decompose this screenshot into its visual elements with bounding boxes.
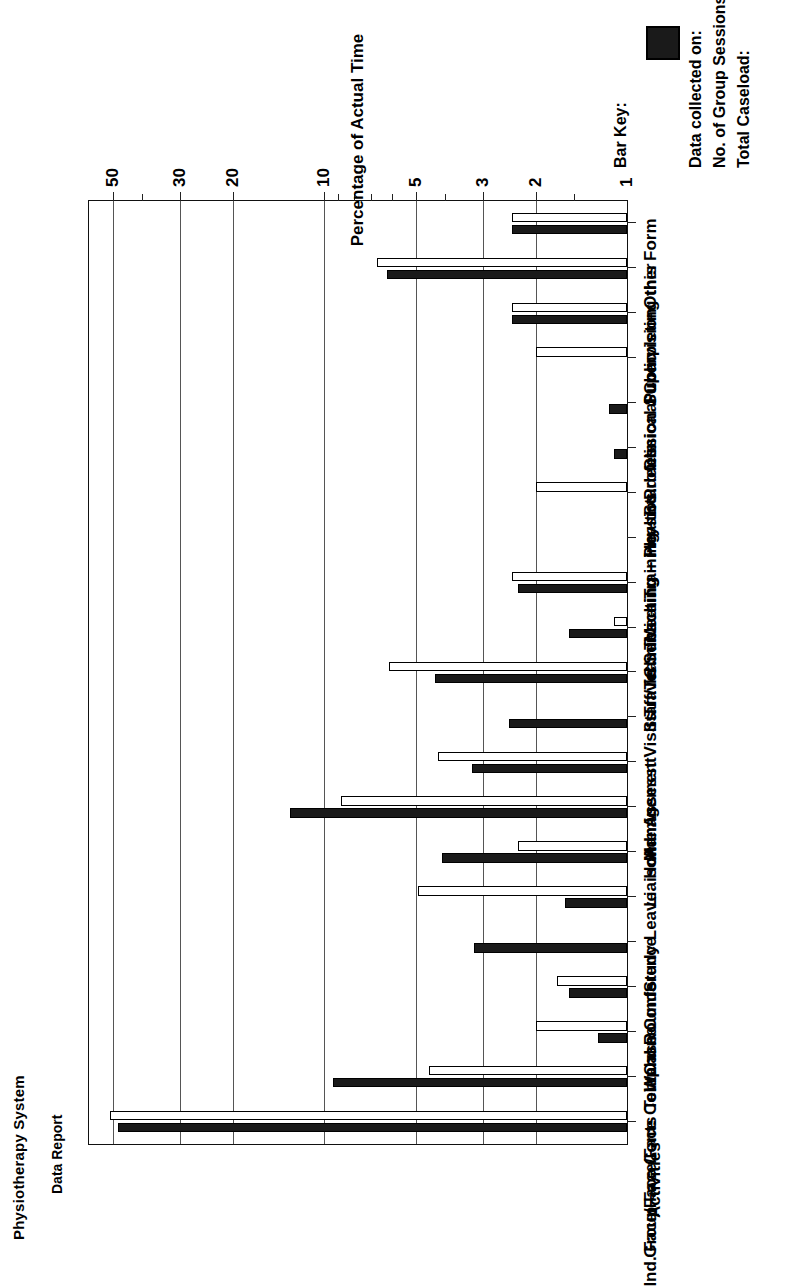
bar-group bbox=[89, 740, 627, 785]
x-tick-mark bbox=[627, 672, 636, 673]
x-tick-mark bbox=[627, 357, 636, 358]
x-tick-mark bbox=[627, 986, 636, 987]
y-minor-tick bbox=[445, 194, 446, 201]
legend-row-label: No. of Group Sessions: bbox=[708, 0, 732, 168]
bar-group bbox=[89, 964, 627, 1009]
y-tick-mark bbox=[416, 192, 417, 201]
bar-22-3-90-19 bbox=[387, 270, 627, 280]
bar-15-6-90-7 bbox=[341, 796, 627, 806]
legend-swatches bbox=[646, 0, 680, 60]
bar-22-3-90-0 bbox=[118, 1123, 627, 1133]
x-tick-mark bbox=[627, 1031, 636, 1032]
x-tick-mark bbox=[627, 716, 636, 717]
y-tick-mark bbox=[180, 192, 181, 201]
legend-row: Data collected on: 22.3.90 15.6.90 bbox=[684, 0, 708, 168]
y-tick-label: 3 bbox=[473, 178, 493, 187]
y-minor-tick bbox=[392, 194, 393, 201]
x-tick-mark bbox=[627, 1121, 636, 1122]
bar-group bbox=[89, 785, 627, 830]
bar-group bbox=[89, 246, 627, 291]
bar-15-6-90-20 bbox=[512, 213, 627, 223]
y-minor-tick bbox=[574, 194, 575, 201]
legend-heading: Bar Key: bbox=[612, 0, 630, 168]
bar-15-6-90-8 bbox=[438, 752, 627, 762]
bar-22-3-90-11 bbox=[569, 629, 627, 639]
x-tick-label: Home Assesst Visits bbox=[641, 712, 661, 878]
bar-group bbox=[89, 605, 627, 650]
y-axis-title: Percentage of Actual Time bbox=[348, 34, 368, 247]
x-tick-mark bbox=[627, 312, 636, 313]
y-tick-mark bbox=[113, 192, 114, 201]
x-tick-mark bbox=[627, 806, 636, 807]
legend-row-label: Data collected on: bbox=[684, 0, 708, 168]
bar-22-3-90-6 bbox=[442, 853, 627, 863]
y-tick-label: 10 bbox=[314, 168, 334, 187]
bar-15-6-90-3 bbox=[557, 976, 627, 986]
y-tick-mark bbox=[483, 192, 484, 201]
title-block: Physiotherapy System Data Report bbox=[10, 1075, 65, 1240]
page-subtitle: Data Report bbox=[49, 1075, 65, 1194]
bar-group bbox=[89, 291, 627, 336]
bar-22-3-90-16 bbox=[609, 404, 627, 414]
bar-group bbox=[89, 1054, 627, 1099]
y-minor-tick bbox=[338, 194, 339, 201]
legend-row: No. of Group Sessions: 16 11 bbox=[708, 0, 732, 168]
x-tick-mark bbox=[627, 582, 636, 583]
bar-22-3-90-1 bbox=[333, 1078, 627, 1088]
bar-group bbox=[89, 920, 627, 965]
x-tick-mark bbox=[627, 222, 636, 223]
y-tick-label: 50 bbox=[103, 168, 123, 187]
bar-15-6-90-19 bbox=[377, 258, 627, 268]
x-tick-label: Completing this Form bbox=[641, 218, 661, 394]
x-tick-mark bbox=[627, 761, 636, 762]
legend-row: Total Caseload: 996 996 bbox=[732, 0, 756, 168]
bar-22-3-90-7 bbox=[290, 808, 627, 818]
bar-group bbox=[89, 830, 627, 875]
bar-group bbox=[89, 515, 627, 560]
bar-group bbox=[89, 695, 627, 740]
bar-15-6-90-17 bbox=[536, 347, 627, 357]
bar-15-6-90-1 bbox=[429, 1066, 627, 1076]
bar-15-6-90-12 bbox=[512, 572, 627, 582]
bar-22-3-90-20 bbox=[512, 225, 627, 235]
x-tick-mark bbox=[627, 896, 636, 897]
bar-15-6-90-2 bbox=[536, 1021, 627, 1031]
bar-group bbox=[89, 650, 627, 695]
y-minor-tick bbox=[142, 194, 143, 201]
y-tick-label-baseline: 1 bbox=[617, 178, 637, 187]
bar-22-3-90-10 bbox=[435, 674, 627, 684]
y-tick-mark bbox=[536, 192, 537, 201]
x-tick-mark bbox=[627, 267, 636, 268]
y-tick-label: 20 bbox=[223, 168, 243, 187]
bar-22-3-90-3 bbox=[569, 988, 627, 998]
legend-swatch-series0 bbox=[646, 26, 680, 60]
bar-22-3-90-2 bbox=[598, 1033, 627, 1043]
x-tick-mark bbox=[627, 402, 636, 403]
bar-15-6-90-6 bbox=[518, 841, 627, 851]
bar-22-3-90-9 bbox=[509, 719, 627, 729]
page-title: Physiotherapy System bbox=[10, 1075, 27, 1240]
legend-block: Bar Key: Data collected on: 22.3.90 15.6… bbox=[612, 0, 756, 168]
bar-group bbox=[89, 1099, 627, 1144]
bar-group bbox=[89, 875, 627, 920]
bar-15-6-90-18 bbox=[512, 303, 627, 313]
bar-group bbox=[89, 426, 627, 471]
x-tick-mark bbox=[627, 627, 636, 628]
x-tick-mark bbox=[627, 851, 636, 852]
x-tick-mark bbox=[627, 1076, 636, 1077]
x-tick-label: Study Leave bbox=[641, 892, 661, 992]
bar-15-6-90-0 bbox=[110, 1111, 627, 1121]
bar-group bbox=[89, 336, 627, 381]
y-tick-mark bbox=[233, 192, 234, 201]
bar-15-6-90-14 bbox=[536, 482, 627, 492]
x-tick-mark bbox=[627, 447, 636, 448]
bar-22-3-90-15 bbox=[614, 449, 627, 459]
x-tick-mark bbox=[627, 492, 636, 493]
bar-group bbox=[89, 560, 627, 605]
bar-group bbox=[89, 1009, 627, 1054]
bar-22-3-90-4 bbox=[474, 943, 627, 953]
bar-22-3-90-18 bbox=[512, 315, 627, 325]
y-tick-label: 2 bbox=[526, 178, 546, 187]
y-minor-tick bbox=[371, 194, 372, 201]
